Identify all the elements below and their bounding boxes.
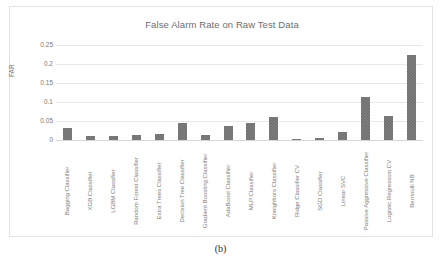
- bar-slot: [56, 45, 79, 140]
- x-tick-slot: Bernoulli NB: [400, 141, 423, 241]
- x-tick-label: Bernoulli NB: [408, 143, 415, 239]
- x-tick-slot: Linear SVC: [331, 141, 354, 241]
- x-tick-slot: SGD Classifier: [308, 141, 331, 241]
- bar-slot: [354, 45, 377, 140]
- x-tick-label: Extra Trees Classifier: [156, 143, 163, 239]
- y-tick-label: 0.25: [31, 42, 53, 49]
- bar-slot: [102, 45, 125, 140]
- chart-title: False Alarm Rate on Raw Test Data: [10, 19, 434, 30]
- chart-frame: False Alarm Rate on Raw Test Data FAR 0.…: [9, 6, 433, 237]
- bar[interactable]: [132, 135, 141, 140]
- x-tick-slot: Random Forest Classifier: [125, 141, 148, 241]
- x-tick-label: AdaBoost Classifier: [225, 143, 232, 239]
- x-tick-slot: Extra Trees Classifier: [148, 141, 171, 241]
- y-tick-label: 0.2: [31, 61, 53, 68]
- bar[interactable]: [407, 55, 416, 140]
- bar-slot: [194, 45, 217, 140]
- x-tick-label: SGD Classifier: [316, 143, 323, 239]
- x-tick-slot: Passive Aggressive Classifier: [354, 141, 377, 241]
- x-tick-slot: AdaBoost Classifier: [217, 141, 240, 241]
- bar-slot: [171, 45, 194, 140]
- x-tick-label: XGB Classifier: [87, 143, 94, 239]
- x-tick-slot: Logistic Regression CV: [377, 141, 400, 241]
- x-tick-label: Logistic Regression CV: [385, 143, 392, 239]
- x-tick-slot: Decision Tree Classifier: [171, 141, 194, 241]
- y-tick-label: 0.1: [31, 99, 53, 106]
- bar[interactable]: [384, 116, 393, 140]
- bar-slot: [240, 45, 263, 140]
- x-tick-label: Passive Aggressive Classifier: [362, 143, 369, 239]
- bar[interactable]: [246, 123, 255, 140]
- x-tick-slot: MLP Classifier: [240, 141, 263, 241]
- x-tick-label: Bagging Classifier: [64, 143, 71, 239]
- x-tick-label: LGBM Classifier: [110, 143, 117, 239]
- x-tick-label: Kneighbors Classifier: [271, 143, 278, 239]
- x-tick-label: Ridge Classifier CV: [294, 143, 301, 239]
- bar-slot: [285, 45, 308, 140]
- bar[interactable]: [178, 123, 187, 140]
- bar-slot: [400, 45, 423, 140]
- bar[interactable]: [292, 139, 301, 140]
- bar[interactable]: [63, 128, 72, 140]
- bar[interactable]: [155, 134, 164, 140]
- bar[interactable]: [269, 117, 278, 140]
- x-tick-label: Gradient Boosting Classifier: [202, 143, 209, 239]
- x-tick-slot: Kneighbors Classifier: [262, 141, 285, 241]
- bar-slot: [125, 45, 148, 140]
- bar-slot: [308, 45, 331, 140]
- x-tick-label: Linear SVC: [339, 143, 346, 239]
- x-tick-slot: LGBM Classifier: [102, 141, 125, 241]
- y-tick-label: 0.15: [31, 80, 53, 87]
- bar-slot: [377, 45, 400, 140]
- bar-slot: [148, 45, 171, 140]
- y-axis-ticks: 0.250.20.150.10.050: [26, 45, 53, 140]
- x-tick-label: Random Forest Classifier: [133, 143, 140, 239]
- x-tick-slot: Bagging Classifier: [56, 141, 79, 241]
- figure: False Alarm Rate on Raw Test Data FAR 0.…: [0, 0, 441, 266]
- bar-series: [56, 45, 423, 140]
- y-tick-label: 0.05: [31, 118, 53, 125]
- bar[interactable]: [361, 97, 370, 140]
- bar[interactable]: [224, 126, 233, 140]
- bar[interactable]: [338, 132, 347, 140]
- bar[interactable]: [86, 136, 95, 140]
- x-tick-slot: Gradient Boosting Classifier: [194, 141, 217, 241]
- x-axis-ticks: Bagging ClassifierXGB ClassifierLGBM Cla…: [56, 141, 423, 241]
- bar[interactable]: [201, 135, 210, 140]
- y-tick-label: 0: [31, 137, 53, 144]
- x-tick-label: Decision Tree Classifier: [179, 143, 186, 239]
- figure-caption: (b): [0, 243, 441, 254]
- bar-slot: [262, 45, 285, 140]
- bar[interactable]: [109, 136, 118, 140]
- x-tick-slot: XGB Classifier: [79, 141, 102, 241]
- y-axis-title: FAR: [8, 64, 15, 77]
- bar-slot: [79, 45, 102, 140]
- x-tick-label: MLP Classifier: [248, 143, 255, 239]
- bar-slot: [217, 45, 240, 140]
- x-tick-slot: Ridge Classifier CV: [285, 141, 308, 241]
- bar[interactable]: [315, 138, 324, 140]
- bar-slot: [331, 45, 354, 140]
